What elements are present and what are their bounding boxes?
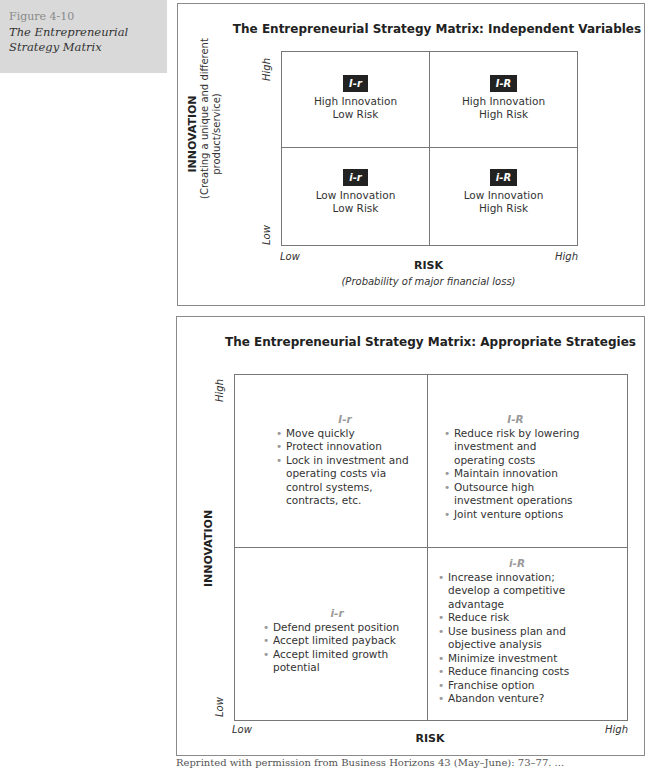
strategy-item: Reduce risk by lowering investment and o… <box>443 427 588 468</box>
cell-i-R: i-R Increase innovation; develop a compe… <box>437 557 597 706</box>
strategy-item: Reduce financing costs <box>437 665 597 679</box>
y-axis-high: High <box>214 379 225 402</box>
strategy-item: Abandon venture? <box>437 692 597 706</box>
x-axis-title: RISK <box>234 732 626 745</box>
y-axis-low: Low <box>261 225 272 245</box>
strategy-item: Maintain innovation <box>443 467 588 481</box>
matrix-grid: I-r High Innovation Low Risk I-R High In… <box>281 51 578 246</box>
x-axis-subtitle: (Probability of major financial loss) <box>281 276 576 288</box>
strategy-item: Outsource high investment operations <box>443 481 588 508</box>
strategy-item: Defend present position <box>262 621 412 635</box>
y-axis-low: Low <box>214 697 225 717</box>
panel-title: The Entrepreneurial Strategy Matrix: App… <box>177 335 644 349</box>
cell-I-R: I-R Reduce risk by lowering investment a… <box>443 413 588 521</box>
figure-label: Figure 4-10 The Entrepreneurial Strategy… <box>0 0 167 73</box>
strategy-item: Move quickly <box>275 427 415 441</box>
cell-I-r: I-r Move quickly Protect innovation Lock… <box>275 413 415 508</box>
cell-i-r: i-r Low Innovation Low Risk <box>282 166 429 215</box>
x-axis-title: RISK <box>281 259 576 272</box>
strategy-item: Minimize investment <box>437 652 597 666</box>
y-axis-high: High <box>261 58 272 81</box>
cell-i-R: i-R Low Innovation High Risk <box>430 166 577 215</box>
cell-i-r: i-r Defend present position Accept limit… <box>262 607 412 675</box>
strategy-item: Accept limited payback <box>262 634 412 648</box>
strategy-item: Reduce risk <box>437 611 597 625</box>
cell-I-R: I-R High Innovation High Risk <box>430 72 577 121</box>
figure-title: The Entrepreneurial Strategy Matrix <box>9 25 128 55</box>
strategy-item: Increase innovation; develop a competiti… <box>437 571 597 612</box>
y-axis-title: INNOVATION <box>202 510 215 587</box>
y-axis-label: INNOVATION (Creating a unique and differ… <box>186 69 223 199</box>
strategy-item: Use business plan and objective analysis <box>437 625 597 652</box>
reprint-caption: Reprinted with permission from Business … <box>176 757 564 768</box>
strategy-item: Franchise option <box>437 679 597 693</box>
panel-title: The Entrepreneurial Strategy Matrix: Ind… <box>178 22 644 36</box>
figure-number: Figure 4-10 <box>9 10 74 23</box>
strategy-item: Accept limited growth potential <box>262 648 412 675</box>
appropriate-strategies-panel: The Entrepreneurial Strategy Matrix: App… <box>176 316 645 756</box>
strategy-item: Lock in investment and operating costs v… <box>275 454 415 508</box>
cell-I-r: I-r High Innovation Low Risk <box>282 72 429 121</box>
strategy-item: Protect innovation <box>275 440 415 454</box>
y-axis-subtitle: (Creating a unique and different product… <box>199 69 223 199</box>
matrix-grid: I-r Move quickly Protect innovation Lock… <box>234 374 628 721</box>
strategy-item: Joint venture options <box>443 508 588 522</box>
independent-variables-panel: The Entrepreneurial Strategy Matrix: Ind… <box>177 3 645 306</box>
